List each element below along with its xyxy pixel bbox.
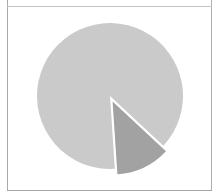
pie-chart [0,0,219,192]
pie-slices [37,23,183,174]
